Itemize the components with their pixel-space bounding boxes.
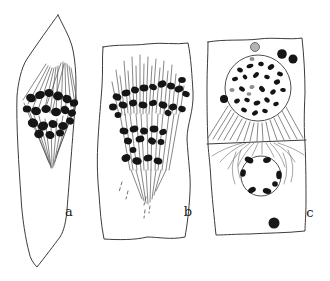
cell-a: a — [17, 15, 79, 267]
cell-a-outline — [17, 15, 76, 267]
figure-canvas: a — [0, 0, 330, 281]
cell-b-fiber-dashes — [119, 182, 150, 218]
cell-c: c — [207, 38, 314, 235]
cell-c-nucleus-top — [225, 55, 291, 121]
cell-b-spindle-fibers-taper — [131, 170, 166, 204]
panel-label-c: c — [306, 205, 313, 220]
panel-label-a: a — [65, 204, 73, 219]
cell-a-chromosomes — [23, 88, 79, 140]
mitosis-figure: a — [0, 0, 330, 281]
cell-b: b — [97, 43, 193, 240]
panel-label-b: b — [184, 204, 192, 219]
cell-c-cell-plate-line — [207, 140, 306, 144]
cell-a-spindle-fibers-upper — [23, 62, 77, 113]
cell-c-gray-body — [251, 43, 260, 52]
cell-c-bottom-body — [269, 218, 280, 229]
